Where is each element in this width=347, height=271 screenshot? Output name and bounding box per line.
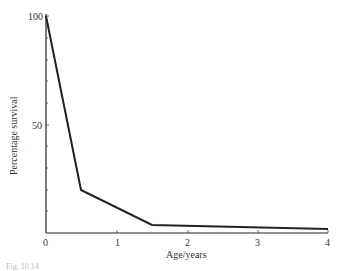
y-tick-50: 50 xyxy=(32,120,42,131)
x-tick-0: 0 xyxy=(43,237,48,248)
survival-curve xyxy=(46,16,328,229)
y-axis-label: Percentage survival xyxy=(8,96,19,175)
x-tick-1: 1 xyxy=(115,237,120,248)
x-axis-label: Age/years xyxy=(166,249,207,260)
x-tick-3: 3 xyxy=(255,237,260,248)
survival-chart: 100 50 0 1 2 3 4 Age/years Percentage su… xyxy=(0,0,347,271)
x-tick-2: 2 xyxy=(185,237,190,248)
figure-caption: Fig. 10.14 xyxy=(6,262,39,271)
x-tick-4: 4 xyxy=(325,237,330,248)
y-tick-100: 100 xyxy=(28,11,43,22)
